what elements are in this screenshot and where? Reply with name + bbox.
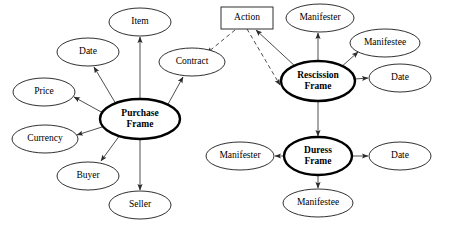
node-label-seller: Seller bbox=[129, 199, 152, 209]
node-action[interactable]: Action bbox=[221, 7, 273, 29]
node-label-manifestee_duress: Manifestee bbox=[297, 197, 339, 207]
node-date_resc[interactable]: Date bbox=[369, 64, 431, 92]
node-label-item: Item bbox=[131, 16, 149, 26]
node-label-duress_frame: DuressFrame bbox=[304, 145, 332, 166]
node-duress_frame[interactable]: DuressFrame bbox=[284, 137, 352, 175]
edge-action-to-contract bbox=[207, 30, 235, 53]
node-date_duress[interactable]: Date bbox=[369, 142, 431, 170]
node-layer: ItemDatePriceCurrencyBuyerSellerContract… bbox=[12, 4, 431, 219]
node-manifester_duress[interactable]: Manifester bbox=[206, 142, 274, 170]
node-label-contract: Contract bbox=[176, 56, 209, 66]
node-label-date_resc: Date bbox=[391, 72, 409, 82]
node-label-action: Action bbox=[234, 12, 260, 22]
node-price[interactable]: Price bbox=[13, 78, 75, 106]
node-label-manifestee_resc: Manifestee bbox=[364, 37, 406, 47]
node-label-buyer: Buyer bbox=[76, 170, 100, 180]
node-manifester_resc[interactable]: Manifester bbox=[286, 4, 354, 32]
node-label-date_purchase: Date bbox=[79, 46, 97, 56]
frame-network-diagram: ItemDatePriceCurrencyBuyerSellerContract… bbox=[0, 0, 450, 228]
node-contract[interactable]: Contract bbox=[159, 48, 225, 76]
edge-rescission_frame-to-date_resc bbox=[355, 78, 368, 79]
edge-purchase_frame-to-currency bbox=[77, 127, 102, 135]
node-manifestee_resc[interactable]: Manifestee bbox=[350, 29, 420, 57]
node-manifestee_duress[interactable]: Manifestee bbox=[283, 189, 353, 217]
node-label-manifester_duress: Manifester bbox=[219, 150, 261, 160]
node-item[interactable]: Item bbox=[109, 8, 171, 36]
node-purchase_frame[interactable]: PurchaseFrame bbox=[100, 99, 180, 139]
edge-rescission_frame-to-action bbox=[256, 30, 296, 67]
node-label-price: Price bbox=[34, 86, 54, 96]
edge-purchase_frame-to-date_purchase bbox=[94, 67, 116, 104]
node-label-manifester_resc: Manifester bbox=[299, 12, 341, 22]
diagram-canvas: ItemDatePriceCurrencyBuyerSellerContract… bbox=[0, 0, 450, 228]
node-currency[interactable]: Currency bbox=[12, 125, 78, 153]
node-label-purchase_frame: PurchaseFrame bbox=[121, 108, 158, 129]
node-seller[interactable]: Seller bbox=[109, 191, 171, 219]
node-date_purchase[interactable]: Date bbox=[57, 38, 119, 66]
edge-purchase_frame-to-buyer bbox=[101, 135, 120, 161]
node-label-currency: Currency bbox=[27, 133, 63, 143]
node-buyer[interactable]: Buyer bbox=[57, 162, 119, 190]
node-label-date_duress: Date bbox=[391, 150, 409, 160]
edge-purchase_frame-to-price bbox=[74, 97, 103, 113]
node-rescission_frame[interactable]: RescissionFrame bbox=[281, 61, 355, 101]
edge-purchase_frame-to-contract bbox=[167, 77, 183, 106]
